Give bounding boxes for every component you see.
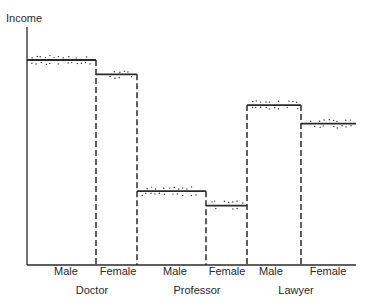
scatter-dot: [77, 63, 78, 64]
category-label-doctor-male: Male: [54, 265, 78, 277]
scatter-dot: [159, 193, 160, 194]
scatter-dot: [215, 208, 216, 209]
bar-lawyer-male: [247, 100, 301, 109]
scatter-dot: [260, 107, 261, 108]
scatter-dot: [119, 77, 120, 78]
scatter-dot: [174, 187, 175, 188]
scatter-dot: [58, 56, 59, 57]
scatter-dot: [256, 100, 257, 101]
scatter-dot: [182, 187, 183, 188]
category-label-lawyer-female: Female: [310, 265, 347, 277]
scatter-dot: [163, 188, 164, 189]
scatter-dot: [46, 64, 47, 65]
scatter-dot: [71, 62, 72, 63]
scatter-dot: [345, 126, 346, 127]
scatter-dot: [119, 72, 120, 73]
scatter-dot: [164, 194, 165, 195]
group-label-doctor: Doctor: [76, 284, 108, 296]
scatter-dot: [76, 57, 77, 58]
category-label-professor-male: Male: [163, 265, 187, 277]
scatter-dot: [85, 62, 86, 63]
scatter-dot: [252, 107, 253, 108]
bar-doctor-female: [96, 71, 137, 79]
scatter-dot: [142, 195, 143, 196]
bar-professor-female: [206, 200, 247, 209]
scatter-dot: [288, 100, 289, 101]
scatter-dot: [178, 188, 179, 189]
scatter-dot: [49, 63, 50, 64]
scatter-dot: [292, 101, 293, 102]
scatter-dot: [297, 108, 298, 109]
scatter-dot: [31, 63, 32, 64]
scatter-dot: [296, 102, 297, 103]
scatter-dot: [53, 57, 54, 58]
scatter-dot: [40, 56, 41, 57]
scatter-dot: [124, 71, 125, 72]
scatter-dot: [242, 202, 243, 203]
scatter-dot: [350, 125, 351, 126]
scatter-dot: [337, 127, 338, 128]
scatter-dot: [63, 57, 64, 58]
scatter-dot: [224, 201, 225, 202]
bar-lawyer-female: [301, 119, 356, 129]
scatter-dot: [45, 57, 46, 58]
group-label-professor: Professor: [173, 284, 220, 296]
bars: [27, 55, 356, 265]
scatter-dot: [319, 121, 320, 122]
scatter-dot: [147, 188, 148, 189]
scatter-dot: [323, 119, 324, 120]
scatter-dot: [49, 55, 50, 56]
scatter-dot: [191, 195, 192, 196]
scatter-dot: [127, 71, 128, 72]
scatter-dot: [37, 56, 38, 57]
scatter-dot: [278, 101, 279, 102]
scatter-dot: [151, 186, 152, 187]
scatter-dot: [68, 62, 69, 63]
scatter-dot: [310, 121, 311, 122]
scatter-dot: [58, 63, 59, 64]
scatter-dot: [345, 120, 346, 121]
scatter-dot: [211, 201, 212, 202]
scatter-dot: [31, 57, 32, 58]
scatter-dot: [154, 193, 155, 194]
scatter-dot: [169, 187, 170, 188]
scatter-dot: [260, 101, 261, 102]
bar-professor-male: [137, 186, 206, 196]
scatter-dot: [35, 63, 36, 64]
scatter-dot: [150, 193, 151, 194]
scatter-dot: [329, 119, 330, 120]
scatter-dot: [89, 63, 90, 64]
scatter-dot: [266, 107, 267, 108]
scatter-dot: [186, 188, 187, 189]
scatter-dot: [255, 107, 256, 108]
scatter-dot: [287, 107, 288, 108]
scatter-dot: [232, 208, 233, 209]
scatter-dot: [41, 62, 42, 63]
y-axis-label: Income: [6, 12, 42, 24]
bar-doctor-male: [27, 55, 96, 65]
scatter-dot: [236, 208, 237, 209]
scatter-dot: [350, 119, 351, 120]
scatter-dot: [145, 193, 146, 194]
scatter-dot: [314, 126, 315, 127]
income-bar-chart: [0, 0, 372, 308]
scatter-dot: [236, 201, 237, 202]
scatter-dot: [191, 186, 192, 187]
scatter-dot: [232, 201, 233, 202]
group-label-lawyer: Lawyer: [278, 284, 313, 296]
scatter-dot: [333, 126, 334, 127]
scatter-dot: [109, 76, 110, 77]
scatter-dot: [114, 71, 115, 72]
scatter-dot: [131, 76, 132, 77]
scatter-dot: [195, 194, 196, 195]
scatter-dot: [114, 78, 115, 79]
scatter-dot: [341, 125, 342, 126]
scatter-dot: [68, 56, 69, 57]
scatter-dot: [333, 120, 334, 121]
scatter-dot: [278, 108, 279, 109]
scatter-dot: [177, 193, 178, 194]
scatter-dot: [81, 63, 82, 64]
scatter-dot: [252, 101, 253, 102]
scatter-dot: [269, 108, 270, 109]
scatter-dot: [269, 101, 270, 102]
